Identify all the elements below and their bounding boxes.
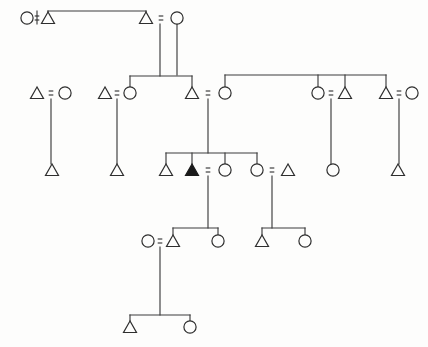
kinship-diagram-canvas [0,0,428,347]
person-symbol-female[interactable] [21,12,33,24]
person-symbol-female[interactable] [219,164,231,176]
person-symbol-female[interactable] [312,87,324,99]
person-symbol-female[interactable] [124,87,136,99]
person-symbol-female[interactable] [299,235,311,247]
person-symbol-female[interactable] [142,235,154,247]
person-symbol-female[interactable] [212,235,224,247]
person-symbol-female[interactable] [251,164,263,176]
kinship-diagram-svg [0,0,428,347]
diagram-background [0,0,428,347]
person-symbol-female[interactable] [327,164,339,176]
person-symbol-female[interactable] [171,12,183,24]
person-symbol-female[interactable] [219,87,231,99]
person-symbol-female[interactable] [406,87,418,99]
person-symbol-female[interactable] [184,321,196,333]
person-symbol-female[interactable] [59,87,71,99]
